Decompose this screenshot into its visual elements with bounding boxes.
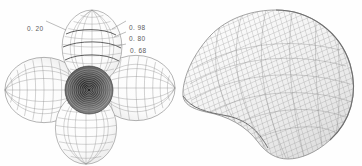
shell-mesh [160, 0, 362, 166]
shell-surface-plot [180, 6, 362, 166]
shell-surface-figure [180, 6, 362, 166]
caption-text: — ———— —— — — —— — — ——— — — — —— — — ——… [2, 0, 259, 1]
four-lobed-surface-figure: 0. 20 0. 98 0. 80 0. 68 [0, 8, 180, 166]
contour-label-0-20: 0. 20 [27, 25, 43, 32]
contour-label-0-80: 0. 80 [129, 35, 145, 42]
contour-label-0-68: 0. 68 [130, 47, 146, 54]
figure-page: — ———— —— — — —— — — ——— — — — —— — — ——… [0, 0, 362, 166]
contour-label-0-98: 0. 98 [129, 24, 145, 31]
core-rings [65, 66, 113, 114]
